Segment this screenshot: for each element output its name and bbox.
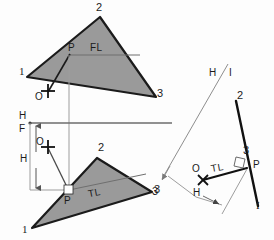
fold-line-h-label: H — [19, 111, 26, 121]
front-view-point-p-label: P — [64, 196, 71, 206]
engineering-drawing-canvas: 2 1 3 P FL O H F H 2 1 3 P TL O H I 2 3 … — [0, 0, 274, 240]
auxiliary-view-group — [162, 64, 258, 214]
aux-point-o-label: O — [192, 164, 200, 174]
aux-p-to-base-line — [222, 169, 247, 214]
geometry-vector-layer — [0, 0, 274, 240]
aux-fold-i-label: I — [229, 68, 232, 78]
fold-line-f-label: F — [19, 124, 25, 134]
front-view-point-p-marker — [64, 185, 73, 194]
top-view-vertex-1-label: 1 — [19, 66, 25, 77]
front-view-triangle-group — [32, 140, 152, 228]
top-view-triangle-group — [27, 17, 156, 98]
aux-h-leader-left — [168, 176, 196, 197]
aux-arrow-target-3-label: 3 — [154, 184, 160, 195]
top-view-vertex-2-label: 2 — [96, 2, 102, 13]
front-view-vertex-2-label: 2 — [98, 142, 104, 153]
top-view-triangle — [27, 17, 156, 97]
aux-vertex-2-label: 2 — [237, 90, 243, 101]
hi-fold-arrow — [162, 166, 170, 180]
top-view-point-o-label: O — [35, 92, 43, 102]
aux-true-length-line — [203, 168, 247, 180]
aux-vertex-1-label: I — [256, 200, 260, 211]
aux-vertex-3-label: 3 — [243, 145, 249, 156]
top-view-point-p-label: P — [68, 43, 75, 53]
aux-fold-h-label: H — [209, 68, 216, 78]
front-view-vertex-1-label: 1 — [22, 224, 28, 235]
top-view-vertex-3-label: 3 — [157, 88, 163, 99]
front-view-o-to-p-leader — [48, 148, 68, 189]
dimension-h-label: H — [20, 154, 27, 164]
aux-point-p-label: P — [253, 160, 260, 170]
top-view-fl-label: FL — [90, 43, 103, 53]
right-angle-marker — [234, 157, 245, 168]
front-view-point-o-label: O — [36, 137, 44, 147]
aux-dimension-h-label: H — [193, 188, 200, 198]
